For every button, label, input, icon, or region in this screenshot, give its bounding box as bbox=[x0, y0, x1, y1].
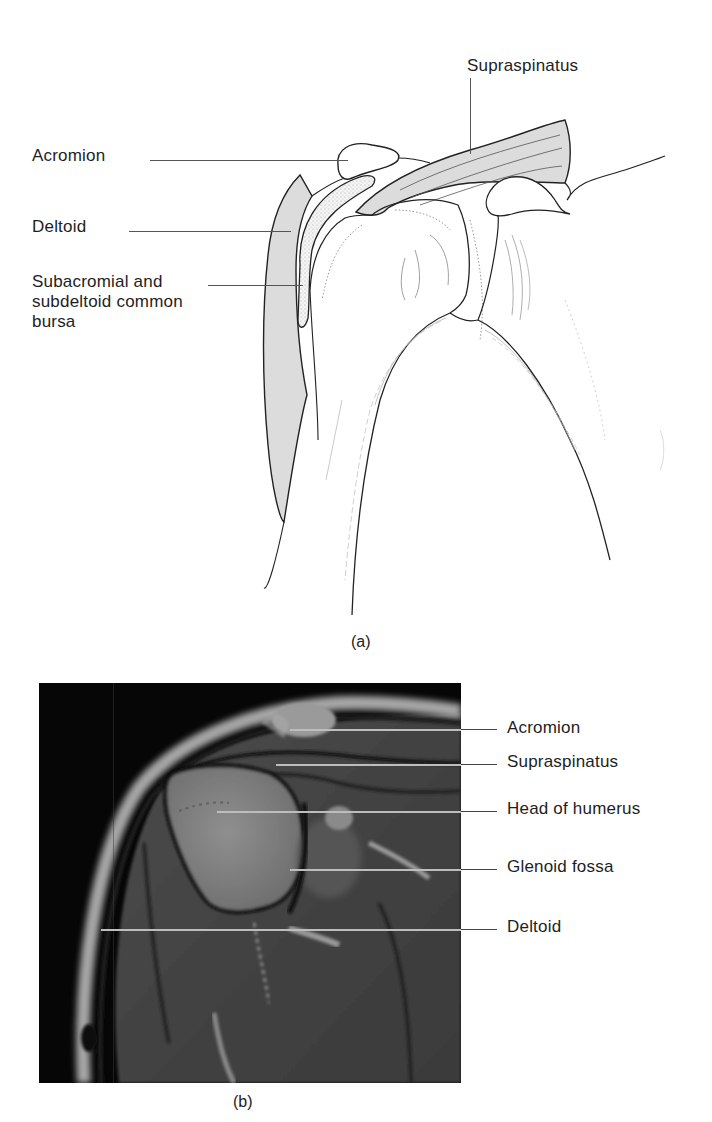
leader-supraspinatus-b bbox=[461, 764, 497, 765]
leader-acromion-b-inner bbox=[290, 729, 461, 731]
label-deltoid-a: Deltoid bbox=[32, 217, 86, 236]
leader-supraspinatus-a bbox=[470, 78, 471, 154]
leader-glenoid-b bbox=[461, 869, 497, 870]
label-head-humerus-b: Head of humerus bbox=[507, 799, 640, 818]
leader-deltoid-b bbox=[461, 929, 497, 930]
leader-deltoid-b-inner bbox=[101, 929, 461, 931]
mri-scan bbox=[39, 683, 461, 1083]
mri-image bbox=[39, 683, 461, 1083]
leader-acromion-a bbox=[150, 160, 348, 161]
label-bursa-a: Subacromial and subdeltoid common bursa bbox=[32, 272, 183, 332]
leader-head-humerus-b-inner bbox=[217, 811, 461, 813]
leader-deltoid-a bbox=[129, 231, 291, 232]
leader-head-humerus-b bbox=[461, 811, 497, 812]
leader-bursa-a bbox=[208, 285, 303, 286]
humeral-head bbox=[372, 200, 469, 313]
label-supraspinatus-a: Supraspinatus bbox=[467, 56, 578, 75]
leader-acromion-b bbox=[461, 729, 497, 730]
deltoid-muscle bbox=[264, 175, 313, 522]
label-deltoid-b: Deltoid bbox=[507, 917, 561, 936]
label-supraspinatus-b: Supraspinatus bbox=[507, 752, 618, 771]
label-acromion-b: Acromion bbox=[507, 718, 580, 737]
scapula-border bbox=[478, 320, 610, 560]
label-acromion-a: Acromion bbox=[32, 146, 105, 165]
label-glenoid-b: Glenoid fossa bbox=[507, 857, 614, 876]
caption-a: (a) bbox=[351, 633, 371, 651]
acromion-bone bbox=[338, 144, 399, 180]
caption-b: (b) bbox=[233, 1093, 253, 1111]
humerus-shaft bbox=[352, 313, 450, 615]
leader-supraspinatus-b-inner bbox=[276, 764, 461, 766]
leader-glenoid-b-inner bbox=[290, 869, 461, 871]
